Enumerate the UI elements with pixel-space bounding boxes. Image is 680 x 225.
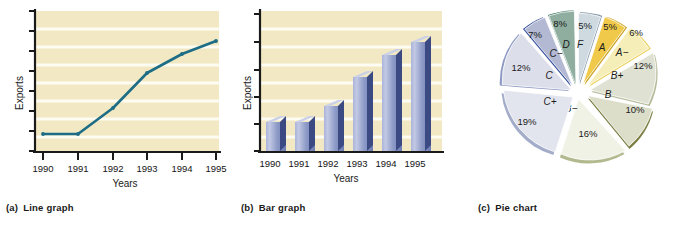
- pie-label-B-pct: 10%: [625, 104, 645, 115]
- bar-1993: [353, 71, 373, 151]
- caption-bar-graph: (b)Bar graph: [241, 202, 305, 213]
- caption-tag-c: (c): [478, 202, 490, 213]
- pie-label-D-pct: 8%: [553, 18, 567, 29]
- panel-bar-graph: Exports: [228, 0, 450, 225]
- caption-pie-chart: (c)Pie chart: [478, 202, 537, 213]
- caption-tag-b: (b): [241, 202, 254, 213]
- bar-graph-x-tick-1995: 1995: [396, 158, 434, 169]
- bar-1992: [324, 100, 344, 151]
- pie-label-C-grade: C: [545, 70, 553, 81]
- line-graph-x-tick-1990: 1990: [23, 163, 63, 174]
- pie-label-C-minus-pct: 7%: [528, 29, 542, 40]
- bar-graph-x-axis-label: Years: [316, 173, 376, 184]
- bar-1994: [382, 49, 402, 151]
- line-graph-x-tick-1991: 1991: [58, 163, 98, 174]
- figure-graph-types: Exports: [0, 0, 680, 225]
- caption-line-graph: (a)Line graph: [6, 202, 74, 213]
- caption-text-a: Line graph: [23, 202, 74, 213]
- pie-label-B-plus-grade: B+: [611, 70, 624, 81]
- line-graph-x-tick-1993: 1993: [127, 163, 167, 174]
- panel-line-graph: Exports: [0, 0, 228, 225]
- pie-label-D-grade: D: [562, 39, 569, 50]
- bar-graph-plot: [228, 2, 450, 167]
- pie-label-A-minus-grade: A−: [615, 47, 629, 58]
- panel-pie-chart: 5% F 5% A 6% A− 12% B+: [450, 0, 680, 225]
- pie-slice-C-plus[interactable]: 19% C+: [502, 90, 574, 155]
- line-graph-plot: [0, 2, 228, 167]
- pie-label-A-minus-pct: 6%: [629, 27, 643, 38]
- pie-label-C-plus-pct: 19%: [517, 116, 537, 127]
- pie-label-C-pct: 12%: [511, 62, 531, 73]
- caption-text-c: Pie chart: [495, 202, 537, 213]
- pie-label-C-plus-grade: C+: [543, 96, 556, 107]
- pie-label-B-grade: B: [605, 89, 612, 100]
- line-graph-plot-background: [35, 11, 219, 151]
- pie-label-B-plus-pct: 12%: [633, 60, 653, 71]
- caption-text-b: Bar graph: [259, 202, 306, 213]
- pie-label-F-pct: 5%: [578, 20, 592, 31]
- pie-label-A-pct: 5%: [603, 21, 617, 32]
- pie-label-C-minus-grade: C−: [549, 48, 562, 59]
- bar-1995: [411, 36, 431, 151]
- pie-label-B-minus-pct: 16%: [578, 128, 598, 139]
- line-graph-x-ticks: [43, 152, 216, 160]
- pie-chart-plot: 5% F 5% A 6% A− 12% B+: [450, 0, 680, 175]
- line-graph-x-axis-label: Years: [95, 178, 155, 189]
- caption-tag-a: (a): [6, 202, 18, 213]
- pie-label-F-grade: F: [577, 39, 584, 50]
- pie-label-A-grade: A: [598, 42, 606, 53]
